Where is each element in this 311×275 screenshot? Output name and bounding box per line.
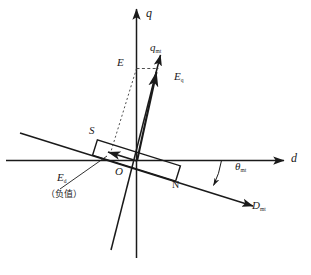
theta-mt-label: θmt [235,161,246,172]
ed-base: E [57,171,64,183]
figure-canvas: q d qmt Dmt Eq Ed E θmt S N O （负值） [0,0,311,275]
eq-vector [137,72,157,161]
ed-construction-dotted [111,69,137,154]
figure-caption [0,262,311,275]
ed-vector [108,152,137,161]
d-mt-base: D [252,199,260,211]
negative-value-note: （负值） [46,190,82,199]
q-mt-subscript: mt [156,48,162,54]
q-mt-axis-label: qmt [150,42,161,53]
theta-angle-arc [214,161,222,186]
theta-subscript: mt [240,167,246,173]
origin-label: O [115,166,123,177]
d-mt-axis-label: Dmt [252,200,266,211]
q-mt-base: q [150,41,156,53]
magnet-north-label: N [172,180,179,190]
q-axis-label: q [146,7,152,19]
eq-base: E [174,70,181,82]
eq-vector-label: Eq [174,71,183,82]
magnet-south-label: S [89,125,95,136]
d-axis-label: d [291,152,297,164]
d-mt-subscript: mt [260,206,266,212]
e-point-label: E [117,57,124,68]
ed-vector-label: Ed [57,172,66,183]
